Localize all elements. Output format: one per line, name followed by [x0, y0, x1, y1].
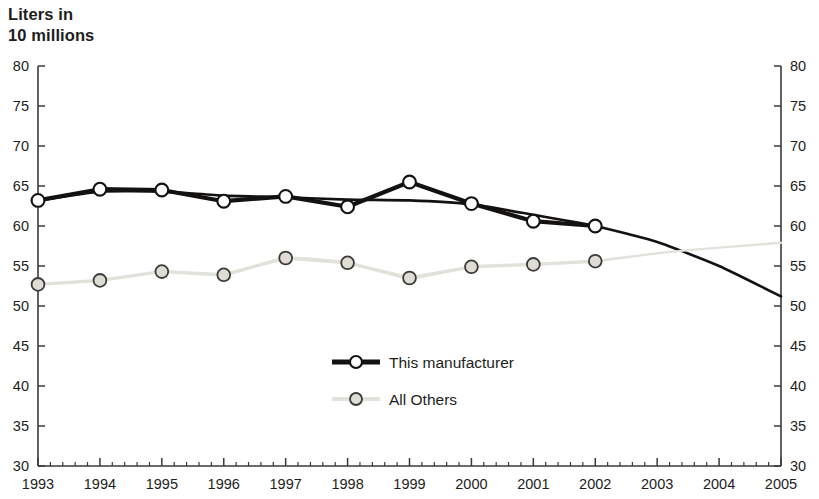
legend-label-1: All Others — [389, 391, 457, 408]
data-point-marker — [465, 260, 478, 273]
data-point-marker — [155, 184, 168, 197]
legend-label-0: This manufacturer — [389, 354, 514, 371]
x-tick-label: 2001 — [517, 476, 549, 492]
y-tick-label-right: 50 — [790, 298, 806, 314]
y-tick-label-left: 30 — [13, 458, 29, 474]
data-point-marker — [94, 274, 107, 287]
y-tick-label-left: 65 — [13, 178, 29, 194]
data-point-marker — [94, 183, 107, 196]
y-tick-label-left: 40 — [13, 378, 29, 394]
x-tick-label: 2005 — [765, 476, 797, 492]
data-point-marker — [403, 272, 416, 285]
data-point-marker — [589, 255, 602, 268]
data-point-marker — [589, 220, 602, 233]
x-tick-label: 2002 — [579, 476, 611, 492]
y-tick-label-right: 70 — [790, 138, 806, 154]
data-point-marker — [217, 268, 230, 281]
x-tick-label: 1995 — [146, 476, 178, 492]
legend-marker-1 — [350, 393, 362, 405]
y-tick-label-right: 45 — [790, 338, 806, 354]
y-tick-label-left: 75 — [13, 98, 29, 114]
data-point-marker — [32, 194, 45, 207]
x-tick-label: 1994 — [84, 476, 116, 492]
data-point-marker — [527, 258, 540, 271]
x-tick-label: 2000 — [455, 476, 487, 492]
data-point-marker — [279, 252, 292, 265]
line-chart: Liters in 10 millions 303540455055606570… — [0, 0, 819, 499]
y-tick-label-left: 45 — [13, 338, 29, 354]
y-tick-label-left: 60 — [13, 218, 29, 234]
y-tick-label-right: 30 — [790, 458, 806, 474]
y-tick-label-right: 65 — [790, 178, 806, 194]
data-point-marker — [279, 190, 292, 203]
y-tick-label-right: 75 — [790, 98, 806, 114]
x-tick-label: 2003 — [641, 476, 673, 492]
x-tick-label: 1999 — [393, 476, 425, 492]
data-point-marker — [527, 215, 540, 228]
data-point-marker — [341, 200, 354, 213]
x-tick-label: 1996 — [208, 476, 240, 492]
y-tick-label-left: 80 — [13, 58, 29, 74]
y-tick-label-left: 35 — [13, 418, 29, 434]
x-tick-label: 1997 — [270, 476, 302, 492]
data-point-marker — [217, 195, 230, 208]
chart-container: Liters in 10 millions 303540455055606570… — [0, 0, 819, 499]
data-point-marker — [155, 265, 168, 278]
y-tick-label-right: 80 — [790, 58, 806, 74]
x-tick-label: 1993 — [22, 476, 54, 492]
data-point-marker — [403, 176, 416, 189]
chart-title-line-1: Liters in — [8, 5, 73, 23]
x-tick-label: 2004 — [703, 476, 735, 492]
legend-marker-0 — [350, 356, 362, 368]
y-tick-label-right: 35 — [790, 418, 806, 434]
y-tick-label-left: 50 — [13, 298, 29, 314]
chart-title-line-2: 10 millions — [8, 26, 94, 44]
y-tick-label-left: 55 — [13, 258, 29, 274]
data-point-marker — [465, 197, 478, 210]
y-tick-label-right: 55 — [790, 258, 806, 274]
y-tick-label-left: 70 — [13, 138, 29, 154]
y-tick-label-right: 60 — [790, 218, 806, 234]
data-point-marker — [341, 256, 354, 269]
data-point-marker — [32, 278, 45, 291]
y-tick-label-right: 40 — [790, 378, 806, 394]
x-tick-label: 1998 — [331, 476, 363, 492]
